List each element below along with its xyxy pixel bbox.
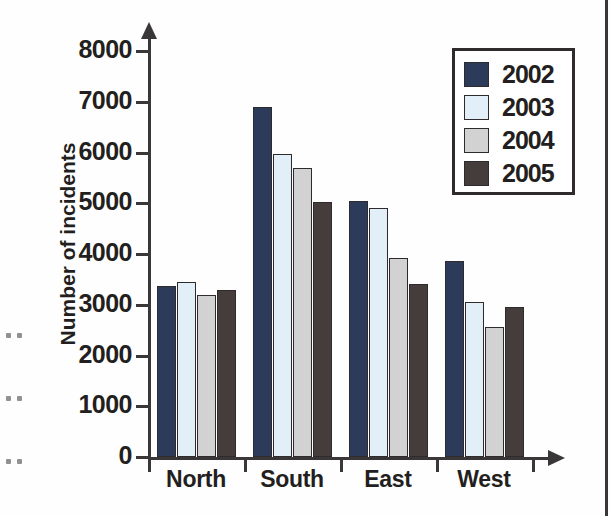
bar-south-2002 [253, 107, 272, 457]
y-axis-tick [136, 202, 149, 205]
x-axis-arrow-icon [548, 450, 565, 466]
y-axis-arrow-icon [141, 22, 157, 39]
legend-swatch-2004 [464, 128, 489, 153]
bar-north-2005 [217, 290, 236, 457]
y-axis-line [148, 36, 151, 460]
y-axis-tick-label: 5000 [20, 187, 132, 216]
y-axis-tick-label: 4000 [20, 238, 132, 267]
x-axis-line [148, 457, 552, 460]
y-axis-tick [136, 355, 149, 358]
y-axis-tick [136, 152, 149, 155]
legend-label: 2005 [502, 161, 554, 186]
y-axis-tick [136, 50, 149, 53]
y-axis-tick-label: 3000 [20, 289, 132, 318]
legend-label: 2004 [502, 128, 554, 153]
x-axis-category-label: South [244, 466, 340, 493]
scan-artifact-dots [6, 459, 30, 465]
y-axis-tick [136, 304, 149, 307]
bar-south-2004 [293, 168, 312, 457]
y-axis-tick [136, 405, 149, 408]
bar-east-2004 [389, 258, 408, 457]
chart-page: Number of incidents 01000200030004000500… [0, 0, 610, 516]
legend-row: 2002 [464, 58, 572, 91]
legend-swatch-2005 [464, 161, 489, 186]
bar-north-2003 [177, 282, 196, 457]
bar-west-2004 [485, 327, 504, 457]
y-axis-tick-label: 1000 [20, 390, 132, 419]
x-axis-tick [532, 459, 535, 472]
legend-row: 2005 [464, 157, 572, 190]
bar-east-2002 [349, 201, 368, 457]
y-axis-tick-label: 2000 [20, 340, 132, 369]
y-axis-tick [136, 101, 149, 104]
bar-chart: Number of incidents 01000200030004000500… [0, 0, 610, 516]
bar-south-2005 [313, 202, 332, 457]
legend-swatch-2003 [464, 95, 489, 120]
legend-row: 2003 [464, 91, 572, 124]
y-axis-tick-label: 7000 [20, 86, 132, 115]
x-axis-category-label: West [436, 466, 532, 493]
legend-label: 2003 [502, 95, 554, 120]
legend-label: 2002 [502, 62, 554, 87]
bar-north-2004 [197, 295, 216, 457]
scan-artifact-dots [6, 396, 30, 402]
bar-east-2005 [409, 284, 428, 457]
legend-row: 2004 [464, 124, 572, 157]
y-axis-tick-label: 6000 [20, 137, 132, 166]
y-axis-tick-label: 0 [20, 441, 132, 470]
y-axis-tick [136, 253, 149, 256]
scan-artifact-dots [6, 333, 30, 339]
x-axis-category-label: East [340, 466, 436, 493]
bar-west-2003 [465, 302, 484, 457]
bar-south-2003 [273, 154, 292, 457]
bar-east-2003 [369, 208, 388, 457]
y-axis-tick-label: 8000 [20, 35, 132, 64]
legend: 2002200320042005 [452, 48, 575, 195]
bar-west-2005 [505, 307, 524, 457]
page-edge-artifact [605, 0, 608, 516]
legend-swatch-2002 [464, 62, 489, 87]
bar-north-2002 [157, 286, 176, 457]
x-axis-category-label: North [148, 466, 244, 493]
bar-west-2002 [445, 261, 464, 457]
